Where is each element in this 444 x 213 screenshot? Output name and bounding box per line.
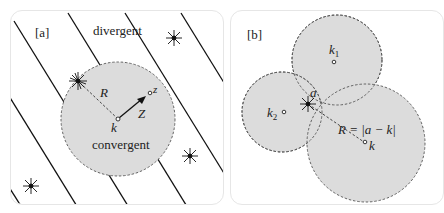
center-k-point — [363, 140, 367, 144]
radius-r-label: R — [99, 85, 108, 100]
panel-b-label: [b] — [247, 27, 262, 42]
center-k1-point — [332, 60, 336, 64]
point-z-label: z — [152, 83, 158, 95]
panel-a-convergence-disk: [a] divergent convergent R k z Z — [10, 10, 224, 205]
divergent-label: divergent — [93, 23, 142, 38]
center-k2-point — [282, 110, 286, 114]
vector-z-label: Z — [138, 106, 146, 121]
singularity-a-label: a — [310, 85, 317, 100]
point-z — [148, 91, 152, 95]
center-k-label: k — [111, 120, 117, 135]
radius-formula-label: R = |a − k| — [337, 122, 396, 137]
panel-a-diagram: [a] divergent convergent R k z Z — [11, 11, 223, 204]
k-label: k — [369, 138, 375, 153]
convergent-label: convergent — [92, 137, 150, 152]
panel-a-label: [a] — [35, 25, 49, 40]
panel-b-diagram: [b] k1 k2 k a R = |a − k| — [231, 11, 443, 204]
panel-b-overlapping-disks: [b] k1 k2 k a R = |a − k| — [230, 10, 444, 205]
